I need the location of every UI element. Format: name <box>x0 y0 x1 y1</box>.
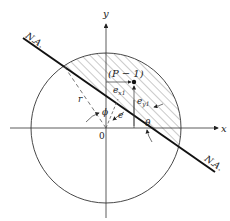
point-label: (P − 1) <box>108 68 144 79</box>
origin-label: 0 <box>99 131 105 141</box>
phi-label: ϕ <box>102 107 108 117</box>
x-axis-label: x <box>221 123 227 134</box>
theta-label: θ <box>145 118 151 128</box>
theta-arrow <box>147 130 152 142</box>
point-p1 <box>132 80 136 84</box>
e-label: e <box>118 110 123 120</box>
section-diagram: y x 0 N.A. N.A. (P − 1) ex1 ey1 r ϕ e θ <box>0 0 230 221</box>
y-axis-label: y <box>102 8 109 19</box>
r-label: r <box>78 94 83 104</box>
